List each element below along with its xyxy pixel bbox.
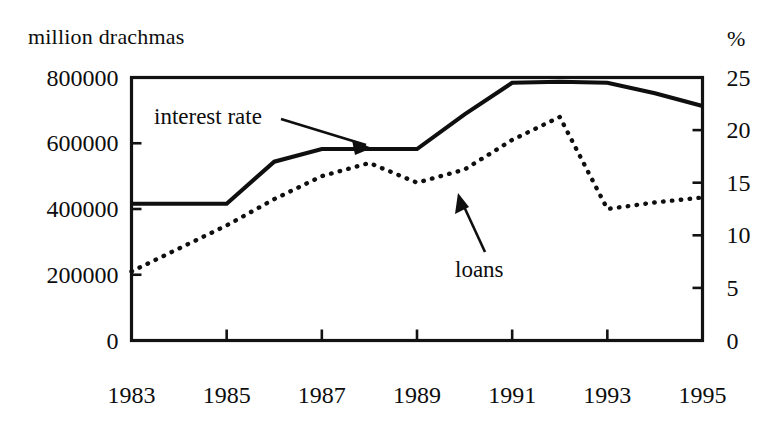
series-line-interest-rate [132,82,703,204]
series-line-loans [132,117,703,272]
chart-figure: million drachmas % interest rate loans 0… [0,0,773,421]
plot-frame [132,78,703,341]
bottom-axis-ticks [227,330,608,341]
plot-area [0,0,773,421]
callout-arrow-loans [455,193,485,252]
